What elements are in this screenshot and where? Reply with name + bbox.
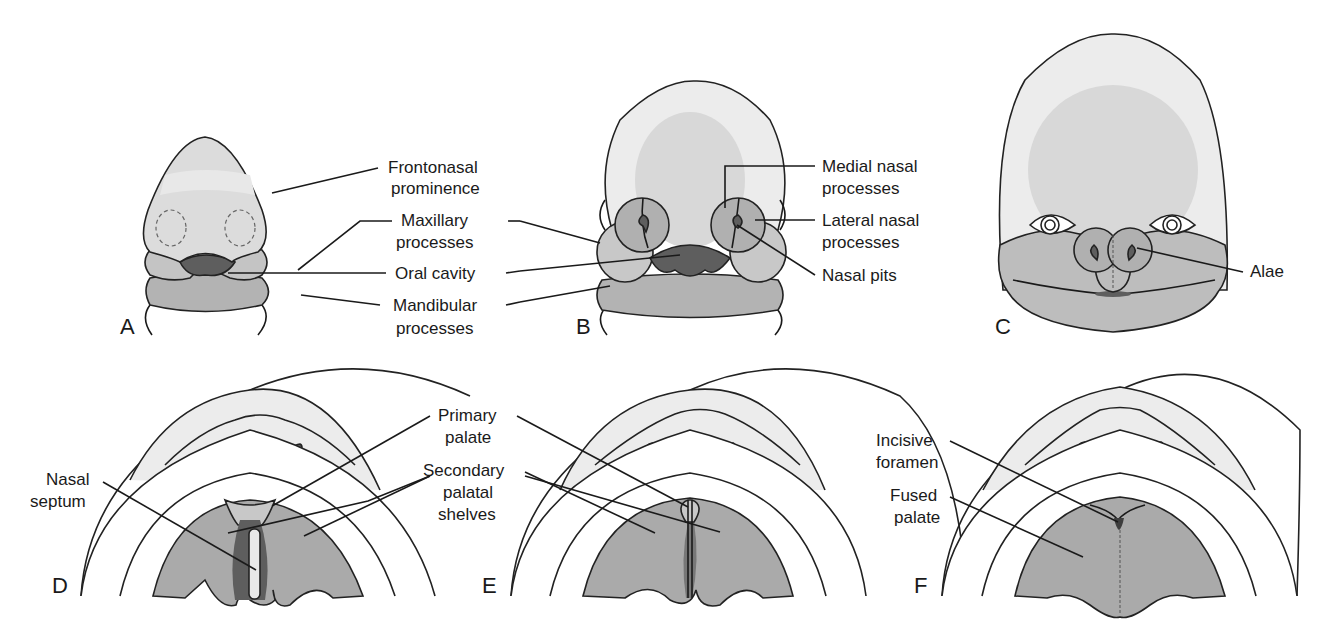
label-nasal-pits: Nasal pits <box>822 266 897 285</box>
panel-letter-e: E <box>482 573 497 598</box>
embryonic-face-palate-diagram: Frontonasal prominence Maxillary process… <box>0 0 1317 631</box>
panel-letter-b: B <box>576 314 591 339</box>
label-frontonasal: Frontonasal <box>388 158 478 177</box>
label-oral-cavity: Oral cavity <box>395 264 476 283</box>
label-nasal: Nasal <box>46 470 89 489</box>
label-shelves: shelves <box>438 505 496 524</box>
panel-letter-f: F <box>914 573 927 598</box>
label-processes-b1: processes <box>822 179 899 198</box>
label-secondary: Secondary <box>423 461 505 480</box>
label-maxillary: Maxillary <box>401 211 469 230</box>
label-alae: Alae <box>1250 262 1284 281</box>
leader-mandibular <box>301 295 380 305</box>
pupil-right-c <box>1167 220 1177 230</box>
label-foramen: foramen <box>876 453 938 472</box>
leader-maxillary <box>298 221 392 270</box>
label-palate-f: palate <box>894 508 940 527</box>
label-lateral-nasal: Lateral nasal <box>822 211 919 230</box>
label-incisive: Incisive <box>876 431 933 450</box>
nasal-septum-d <box>249 529 260 599</box>
panel-letter-a: A <box>120 314 135 339</box>
label-processes-a2: processes <box>396 319 473 338</box>
pupil-left-c <box>1045 220 1055 230</box>
label-septum: septum <box>30 492 86 511</box>
label-primary: Primary <box>438 406 497 425</box>
panel-c: Alae C <box>995 34 1284 339</box>
ear-left-b <box>600 200 605 230</box>
label-palate-e: palate <box>445 428 491 447</box>
oral-cavity-b <box>650 245 730 276</box>
leader-frontonasal <box>272 168 378 193</box>
primary-palate-e <box>681 500 699 522</box>
leader-oral-b-start <box>506 271 520 273</box>
leader-mandibular-b-start <box>506 302 520 305</box>
panel-e: Primary palate Secondary palatal shelves… <box>423 369 966 606</box>
panel-f: Incisive foramen Fused palate F <box>876 374 1300 617</box>
label-mandibular: Mandibular <box>393 296 477 315</box>
label-processes-b2: processes <box>822 233 899 252</box>
panel-b: Medial nasal processes Lateral nasal pro… <box>520 81 919 339</box>
leader-maxillary-b <box>520 221 600 243</box>
label-palatal: palatal <box>443 483 493 502</box>
panel-d: Nasal septum D <box>30 369 470 606</box>
label-processes-a1: processes <box>396 233 473 252</box>
panel-letter-d: D <box>52 573 68 598</box>
label-fused: Fused <box>890 486 937 505</box>
label-medial-nasal: Medial nasal <box>822 157 917 176</box>
panel-a: Frontonasal prominence Maxillary process… <box>120 137 520 339</box>
panel-letter-c: C <box>995 314 1011 339</box>
label-prominence: prominence <box>391 179 480 198</box>
